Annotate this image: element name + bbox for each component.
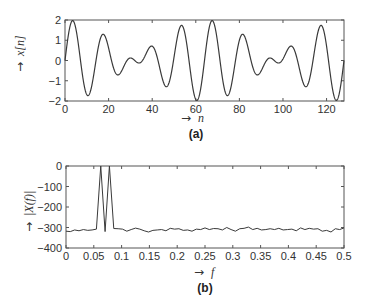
y-tick-label: −2: [48, 95, 61, 107]
x-tick-label: 0.4: [281, 250, 296, 262]
x-tick-label: 120: [317, 103, 335, 115]
x-tick-label: 20: [102, 103, 114, 115]
y-tick-label: −400: [37, 242, 62, 254]
panel-b-spectrum-line: [66, 166, 344, 232]
x-tick-label: 0.05: [83, 250, 104, 262]
panel-a-caption: (a): [189, 127, 204, 141]
panel-b-caption: (b): [197, 281, 212, 295]
x-tick-label: 40: [146, 103, 158, 115]
y-tick-label: −300: [37, 222, 62, 234]
y-tick-label: −1: [48, 75, 61, 87]
panel-a-xlabel-arrow: →: [181, 111, 191, 125]
x-tick-label: 0.2: [170, 250, 185, 262]
y-tick-label: 2: [55, 14, 61, 26]
x-tick-label: 0.3: [225, 250, 240, 262]
panel-a-ylabel: x[n]: [13, 35, 27, 57]
chart-canvas: −2−1012 020406080100120 → x[n] → n (a) −…: [0, 0, 366, 306]
panel-a-xlabel: n: [198, 111, 204, 125]
panel-b-xlabel: f: [211, 265, 216, 279]
y-tick-label: 1: [55, 34, 61, 46]
x-tick-label: 0: [62, 103, 68, 115]
y-tick-label: 0: [56, 160, 62, 172]
panel-b-y-ticks: −400−300−200−1000: [37, 160, 344, 254]
panel-a-time-domain: −2−1012 020406080100120 → x[n] → n (a): [13, 14, 344, 141]
x-tick-label: 0.25: [194, 250, 215, 262]
panel-b-xlabel-arrow: →: [194, 265, 204, 279]
panel-b-ylabel-arrow: →: [22, 222, 36, 232]
panel-a-ylabel-arrow: →: [13, 62, 27, 72]
x-tick-label: 80: [233, 103, 245, 115]
x-tick-label: 0.1: [114, 250, 129, 262]
y-tick-label: 0: [55, 55, 61, 67]
panel-b-ylabel-group: → |X(f)|: [22, 191, 36, 232]
y-tick-label: −200: [37, 201, 62, 213]
x-tick-label: 100: [274, 103, 292, 115]
y-tick-label: −100: [37, 181, 62, 193]
panel-a-ylabel-group: → x[n]: [13, 35, 27, 72]
panel-b-frequency-domain: −400−300−200−1000 00.050.10.150.20.250.3…: [22, 160, 352, 295]
panel-a-signal-line: [65, 21, 344, 101]
panel-a-y-ticks: −2−1012: [48, 14, 344, 107]
x-tick-label: 0.45: [305, 250, 326, 262]
x-tick-label: 0.15: [139, 250, 160, 262]
x-tick-label: 0.5: [336, 250, 351, 262]
x-tick-label: 0.35: [250, 250, 271, 262]
panel-b-ylabel: |X(f)|: [22, 191, 36, 216]
x-tick-label: 0: [63, 250, 69, 262]
panel-b-frame: [66, 166, 344, 248]
